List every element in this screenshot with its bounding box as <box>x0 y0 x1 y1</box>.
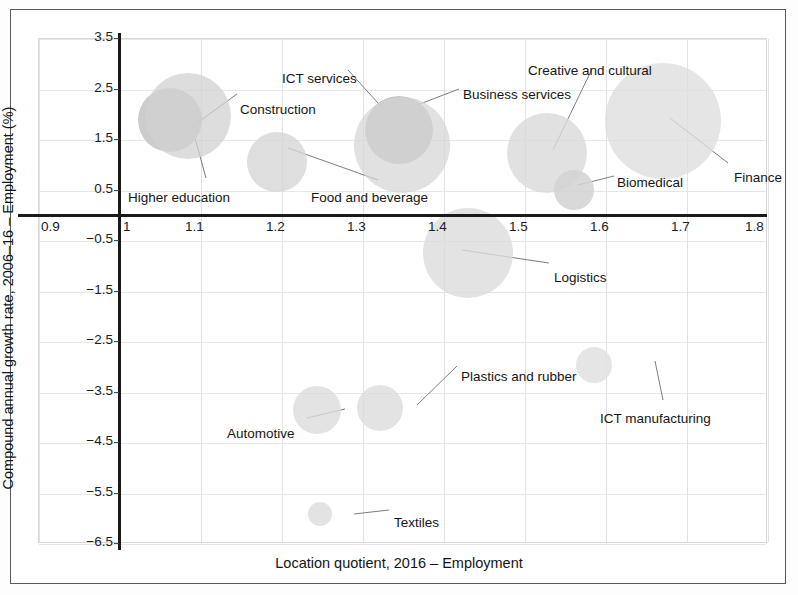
x-tick-label: 1.8 <box>745 219 764 234</box>
y-axis-line <box>118 33 121 550</box>
y-tick-mark <box>114 442 119 443</box>
y-tick-mark <box>114 341 119 342</box>
y-tick-mark <box>114 493 119 494</box>
gridline-vertical <box>39 39 40 542</box>
point-label-business-services: Business services <box>463 87 571 102</box>
x-tick-label: 1.3 <box>347 219 366 234</box>
gridline-vertical <box>768 39 769 542</box>
point-label-food-and-beverage: Food and beverage <box>311 190 428 205</box>
x-tick-label: 1.1 <box>185 219 204 234</box>
gridline-vertical <box>525 39 526 542</box>
y-tick-label: −6.5 <box>67 534 113 549</box>
y-tick-label: 1.5 <box>67 130 113 145</box>
point-label-logistics: Logistics <box>554 270 607 285</box>
point-label-plastics-and-rubber: Plastics and rubber <box>461 369 577 384</box>
x-tick-label: 1.2 <box>266 219 285 234</box>
point-label-finance: Finance <box>734 170 782 185</box>
y-tick-mark <box>114 89 119 90</box>
gridline-horizontal <box>39 342 766 343</box>
point-label-automotive: Automotive <box>227 426 295 441</box>
x-tick-label: 0.9 <box>41 219 60 234</box>
y-tick-label: −3.5 <box>67 383 113 398</box>
y-tick-mark <box>114 543 119 544</box>
point-label-textiles: Textiles <box>394 515 439 530</box>
gridline-horizontal <box>39 393 766 394</box>
y-tick-label: −5.5 <box>67 484 113 499</box>
bubble-plastics-and-rubber[interactable] <box>357 385 403 431</box>
point-label-biomedical: Biomedical <box>617 175 683 190</box>
y-tick-label: −4.5 <box>67 433 113 448</box>
y-tick-mark <box>114 139 119 140</box>
x-tick-label: 1.6 <box>590 219 609 234</box>
gridline-horizontal <box>39 544 766 545</box>
y-tick-mark <box>114 190 119 191</box>
bubble-food-and-beverage[interactable] <box>247 132 307 192</box>
bubble-biomedical[interactable] <box>554 170 594 210</box>
bubble-finance[interactable] <box>605 63 721 179</box>
y-tick-mark <box>114 291 119 292</box>
bubble-textiles[interactable] <box>308 502 332 526</box>
y-tick-mark <box>114 392 119 393</box>
y-tick-label: −1.5 <box>67 282 113 297</box>
point-label-construction: Construction <box>240 102 316 117</box>
x-tick-label: 1.5 <box>509 219 528 234</box>
x-tick-label: 1.4 <box>428 219 447 234</box>
x-tick-label: 1.7 <box>671 219 690 234</box>
bubble-ict-manufacturing[interactable] <box>576 347 612 383</box>
x-tick-label: 1 <box>123 219 131 234</box>
gridline-horizontal <box>39 494 766 495</box>
point-label-higher-education: Higher education <box>128 190 230 205</box>
x-axis-title: Location quotient, 2016 – Employment <box>0 555 798 571</box>
bubble-business-services[interactable] <box>354 97 450 193</box>
gridline-horizontal <box>39 292 766 293</box>
y-axis-title-text: Compound annual growth rate, 2006–16 – E… <box>0 106 16 489</box>
y-tick-label: −0.5 <box>67 231 113 246</box>
bubble-construction[interactable] <box>145 73 231 159</box>
y-tick-label: 2.5 <box>67 80 113 95</box>
y-tick-label: 0.5 <box>67 181 113 196</box>
bubble-automotive[interactable] <box>293 386 341 434</box>
y-tick-label: −2.5 <box>67 332 113 347</box>
bubble-chart-figure: Compound annual growth rate, 2006–16 – E… <box>0 0 798 595</box>
y-tick-mark <box>114 38 119 39</box>
point-label-ict-manufacturing: ICT manufacturing <box>600 411 711 426</box>
y-tick-label: 3.5 <box>67 29 113 44</box>
point-label-creative-and-cultural: Creative and cultural <box>528 63 652 78</box>
point-label-ict-services: ICT services <box>282 71 357 86</box>
gridline-horizontal <box>39 443 766 444</box>
y-tick-mark <box>114 240 119 241</box>
gridline-horizontal <box>39 39 766 40</box>
gridline-horizontal <box>39 241 766 242</box>
x-axis-line <box>18 214 767 217</box>
y-axis-title: Compound annual growth rate, 2006–16 – E… <box>0 0 20 595</box>
